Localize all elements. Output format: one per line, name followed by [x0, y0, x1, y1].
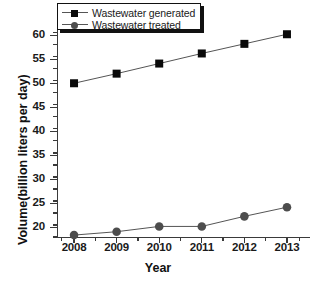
- chart-figure: 202530354045505560 200820092010201120122…: [0, 0, 316, 283]
- data-point-marker: [197, 222, 206, 231]
- chart-legend: Wastewater generated Wastewater treated: [57, 3, 201, 30]
- data-point-marker: [155, 222, 164, 231]
- data-point-marker: [112, 227, 121, 236]
- data-series-layer: [0, 0, 316, 283]
- y-axis-title: Volume(billion liters per day): [16, 74, 30, 245]
- data-point-marker: [240, 40, 248, 48]
- data-point-marker: [240, 212, 249, 221]
- legend-label: Wastewater generated: [92, 7, 195, 19]
- data-point-marker: [155, 60, 163, 68]
- series-line-square: [74, 34, 287, 83]
- x-axis-title: Year: [0, 261, 316, 275]
- data-point-marker: [70, 79, 78, 87]
- circle-marker-icon: [62, 19, 88, 30]
- data-point-marker: [113, 70, 121, 78]
- square-marker-icon: [62, 7, 88, 18]
- data-point-marker: [70, 231, 79, 240]
- series-line-circle: [74, 207, 287, 235]
- data-point-marker: [283, 30, 291, 38]
- legend-item-wastewater-generated: Wastewater generated: [62, 7, 196, 18]
- legend-label: Wastewater treated: [92, 19, 181, 31]
- data-point-marker: [283, 203, 292, 212]
- data-point-marker: [198, 49, 206, 57]
- legend-item-wastewater-treated: Wastewater treated: [62, 19, 196, 30]
